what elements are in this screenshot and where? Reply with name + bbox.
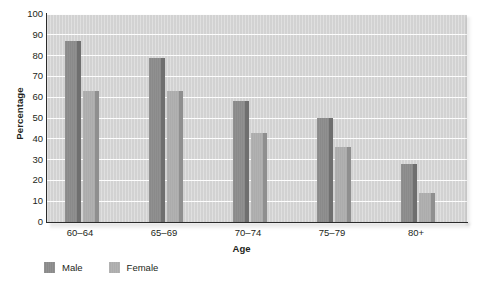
bar-side-shadow [179,91,183,222]
gridline-100 [47,14,467,15]
y-tick-30: 30 [3,155,43,165]
bar-face [335,147,347,222]
bar-face [167,91,179,222]
bar-female-70_74[interactable] [251,133,263,222]
gridline-50 [47,118,467,119]
y-tick-20: 20 [3,175,43,185]
y-tick-80: 80 [3,51,43,61]
y-tick-10: 10 [3,196,43,206]
bar-female-80+[interactable] [419,193,431,222]
bar-side-shadow [95,91,99,222]
legend-label-female: Female [127,262,159,273]
bar-side-shadow [413,164,417,222]
gridline-60 [47,97,467,98]
legend-label-male: Male [62,262,83,273]
x-tick-70_74: 70–74 [218,227,278,238]
bar-face [233,101,245,222]
bar-chart-figure: Percentage 0102030405060708090100 60–646… [0,0,483,289]
y-tick-0: 0 [3,217,43,227]
bar-side-shadow [347,147,351,222]
x-axis-title: Age [0,243,483,254]
bar-female-65_69[interactable] [167,91,179,222]
y-tick-100: 100 [3,9,43,19]
bar-male-60_64[interactable] [65,41,77,222]
x-tick-75_79: 75–79 [302,227,362,238]
bar-side-shadow [329,118,333,222]
bar-female-75_79[interactable] [335,147,347,222]
bar-side-shadow [431,193,435,222]
bar-female-60_64[interactable] [83,91,95,222]
plot-drop-shadow-right [466,17,472,225]
gridline-80 [47,55,467,56]
gridline-90 [47,34,467,35]
chart-legend: Male Female [44,262,158,273]
x-tick-65_69: 65–69 [134,227,194,238]
y-axis-line [46,13,47,223]
bar-side-shadow [245,101,249,222]
male-color-swatch [44,262,55,273]
bar-face [251,133,263,222]
bar-face [83,91,95,222]
plot-area [47,14,467,222]
x-tick-60_64: 60–64 [50,227,110,238]
bar-face [317,118,329,222]
bar-face [401,164,413,222]
bar-side-shadow [161,58,165,222]
female-color-swatch [109,262,120,273]
bar-face [65,41,77,222]
y-tick-70: 70 [3,71,43,81]
y-tick-50: 50 [3,113,43,123]
bar-male-65_69[interactable] [149,58,161,222]
bar-side-shadow [263,133,267,222]
bar-male-80+[interactable] [401,164,413,222]
bar-face [149,58,161,222]
bar-male-75_79[interactable] [317,118,329,222]
x-tick-80+: 80+ [386,227,446,238]
y-axis-tick-labels: 0102030405060708090100 [0,14,43,222]
legend-item-male[interactable]: Male [44,262,83,273]
y-tick-60: 60 [3,92,43,102]
legend-item-female[interactable]: Female [109,262,159,273]
bar-side-shadow [77,41,81,222]
y-tick-40: 40 [3,134,43,144]
bar-face [419,193,431,222]
y-tick-90: 90 [3,30,43,40]
x-axis-line [46,222,468,223]
gridline-70 [47,76,467,77]
bar-male-70_74[interactable] [233,101,245,222]
